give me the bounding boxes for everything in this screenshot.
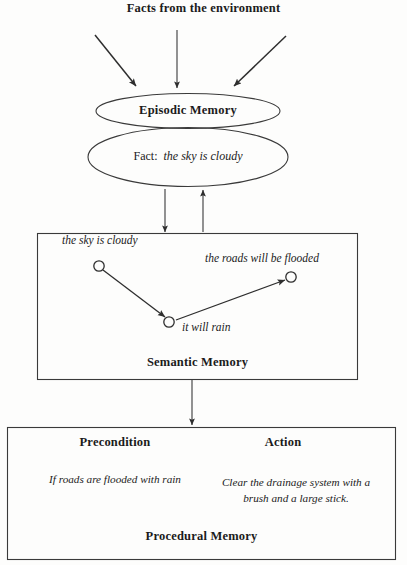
precondition-text: If roads are flooded with rain	[32, 474, 198, 485]
environment-input-arrows	[95, 30, 286, 88]
node-label-it-will-rain: it will rain	[182, 322, 231, 334]
diagram-headline: Facts from the environment	[0, 2, 407, 15]
semantic-network-edges	[103, 270, 285, 320]
environment-arrow-right	[234, 36, 286, 86]
precondition-column-header: Precondition	[50, 436, 180, 449]
fact-statement: Fact: the sky is cloudy	[0, 150, 376, 162]
semantic-memory-title: Semantic Memory	[37, 356, 358, 369]
semantic-network-nodes	[94, 261, 296, 327]
fact-value-label: the sky is cloudy	[164, 149, 243, 163]
node-sky-is-cloudy	[94, 261, 104, 271]
node-roads-will-be-flooded	[286, 272, 296, 282]
action-text: Clear the drainage system with a brush a…	[208, 474, 384, 506]
edge-rain-to-flooded	[176, 280, 285, 320]
episodic-semantic-connectors	[165, 189, 203, 232]
environment-arrow-left	[95, 35, 136, 86]
action-column-header: Action	[228, 436, 338, 449]
node-label-sky-is-cloudy: the sky is cloudy	[62, 235, 138, 247]
edge-sky-to-rain	[103, 270, 165, 317]
fact-lead-label: Fact:	[134, 149, 158, 163]
node-label-roads-will-be-flooded: the roads will be flooded	[205, 253, 319, 265]
node-it-will-rain	[164, 317, 174, 327]
episodic-memory-label: Episodic Memory	[0, 104, 376, 117]
procedural-memory-title: Procedural Memory	[7, 530, 396, 543]
memory-architecture-diagram: Facts from the environment Episodic Memo…	[0, 0, 407, 565]
